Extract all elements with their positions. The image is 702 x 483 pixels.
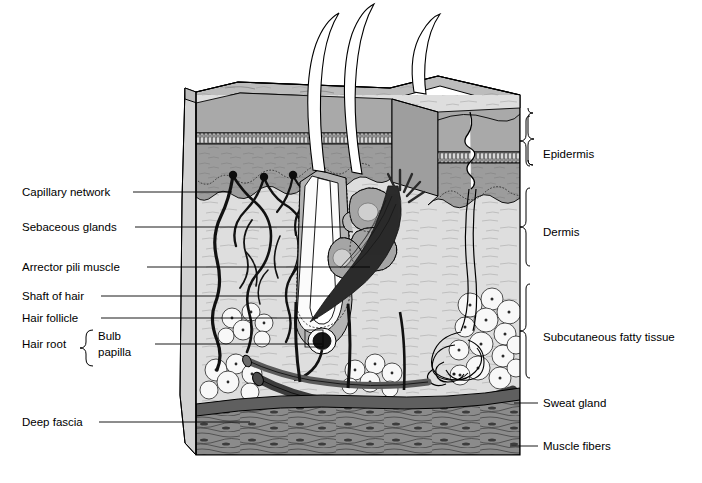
label-dermis: Dermis <box>543 226 580 238</box>
label-muscle-fibers: Muscle fibers <box>543 440 611 452</box>
label-epidermis: Epidermis <box>543 148 594 160</box>
label-shaft-of-hair: Shaft of hair <box>22 290 84 302</box>
skin-diagram-figure: Capillary network Sebaceous glands Arrec… <box>0 0 702 483</box>
skin-cross-section-illustration: Capillary network Sebaceous glands Arrec… <box>0 0 702 483</box>
label-deep-fascia: Deep fascia <box>22 416 83 428</box>
label-hair-root: Hair root <box>22 338 67 350</box>
label-arrector-pili-muscle: Arrector pili muscle <box>22 261 120 273</box>
label-papilla: papilla <box>98 346 132 358</box>
label-bulb: Bulb <box>98 330 121 342</box>
label-hair-follicle: Hair follicle <box>22 312 78 324</box>
label-sebaceous-glands: Sebaceous glands <box>22 221 117 233</box>
label-sweat-gland: Sweat gland <box>543 397 606 409</box>
label-subcutaneous-fatty-tissue: Subcutaneous fatty tissue <box>543 331 675 343</box>
label-capillary-network: Capillary network <box>22 186 110 198</box>
